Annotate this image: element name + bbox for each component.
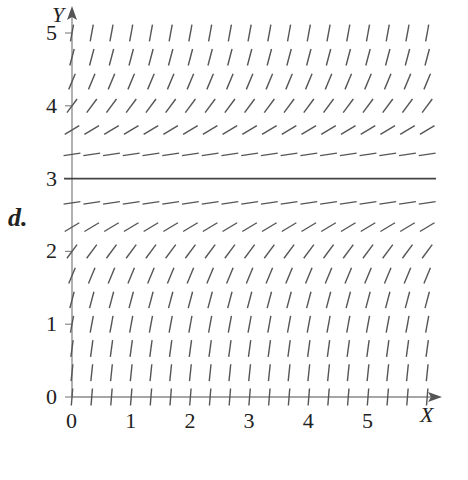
slope-segment bbox=[167, 268, 174, 284]
slope-segment bbox=[91, 364, 93, 381]
slope-segment bbox=[367, 364, 369, 381]
slope-segment bbox=[282, 223, 297, 232]
slope-segment bbox=[248, 340, 250, 357]
slope-segment bbox=[128, 74, 135, 90]
slope-segment bbox=[341, 223, 356, 232]
slope-segment bbox=[207, 268, 214, 284]
slope-segment bbox=[326, 49, 330, 65]
slope-segment bbox=[170, 340, 172, 357]
slope-segment bbox=[246, 74, 253, 90]
slope-segment bbox=[221, 202, 238, 205]
slope-segment bbox=[185, 99, 195, 113]
slope-segment bbox=[264, 245, 274, 259]
slope-segment bbox=[202, 202, 219, 205]
slope-segment bbox=[182, 153, 199, 156]
slope-segment bbox=[346, 292, 350, 308]
slope-segment bbox=[170, 389, 171, 406]
slope-segment bbox=[228, 49, 232, 65]
slope-segment bbox=[327, 340, 329, 357]
slope-segment bbox=[163, 126, 178, 135]
slope-segment bbox=[400, 126, 415, 135]
slope-segment bbox=[406, 25, 409, 42]
slope-segment bbox=[248, 25, 251, 42]
slope-segment bbox=[124, 126, 139, 135]
slope-segment bbox=[190, 364, 192, 381]
slope-segment bbox=[91, 340, 93, 357]
slope-segment bbox=[149, 25, 152, 42]
slope-segment bbox=[347, 25, 350, 42]
slope-segment bbox=[109, 49, 113, 65]
slope-segment bbox=[261, 153, 278, 156]
slope-segment bbox=[386, 49, 390, 65]
slope-segment bbox=[361, 223, 376, 232]
slope-segment bbox=[189, 25, 192, 42]
slope-segment bbox=[363, 245, 373, 259]
slope-segment bbox=[111, 389, 112, 406]
slope-segment bbox=[288, 340, 290, 357]
slope-segment bbox=[347, 340, 349, 357]
slope-segment bbox=[228, 292, 232, 308]
slope-segment bbox=[288, 316, 291, 333]
slope-segment bbox=[268, 25, 271, 42]
slope-segment bbox=[282, 126, 297, 135]
slope-segment bbox=[407, 389, 408, 406]
slope-segment bbox=[223, 126, 238, 135]
slope-segment bbox=[169, 25, 172, 42]
slope-segment bbox=[306, 74, 313, 90]
slope-segment bbox=[386, 25, 389, 42]
y-tick-label: 1 bbox=[46, 313, 57, 335]
slope-segment bbox=[379, 202, 396, 205]
slope-segment bbox=[302, 126, 317, 135]
slope-segment bbox=[340, 153, 357, 156]
slope-segment bbox=[300, 202, 317, 205]
slope-segment bbox=[419, 202, 436, 205]
y-tick-label: 4 bbox=[46, 95, 57, 117]
slope-segment bbox=[207, 74, 214, 90]
slope-segment bbox=[104, 126, 119, 135]
slope-segment bbox=[130, 25, 133, 42]
slope-segment bbox=[162, 153, 179, 156]
slope-segment bbox=[308, 364, 310, 381]
slope-segment bbox=[203, 126, 218, 135]
slope-segment bbox=[286, 74, 293, 90]
slope-segment bbox=[425, 49, 429, 65]
slope-segment bbox=[209, 364, 211, 381]
slope-segment bbox=[183, 126, 198, 135]
slope-segment bbox=[108, 74, 115, 90]
slope-segment bbox=[124, 223, 139, 232]
slope-segment bbox=[245, 245, 255, 259]
slope-segment bbox=[110, 340, 112, 357]
slope-segment bbox=[229, 364, 231, 381]
slope-segment bbox=[187, 74, 194, 90]
slope-segment bbox=[327, 25, 330, 42]
slope-segment bbox=[144, 223, 159, 232]
slope-segment bbox=[90, 292, 94, 308]
slope-segment bbox=[87, 245, 97, 259]
slope-segment bbox=[406, 340, 408, 357]
slope-segment bbox=[166, 245, 176, 259]
slope-segment bbox=[284, 99, 294, 113]
slope-segment bbox=[304, 99, 314, 113]
slope-segment bbox=[208, 49, 212, 65]
slope-segment bbox=[264, 99, 274, 113]
slope-segment bbox=[242, 126, 257, 135]
slope-segment bbox=[247, 292, 251, 308]
slope-segment bbox=[123, 153, 140, 156]
slope-segment bbox=[202, 153, 219, 156]
slope-segment bbox=[229, 340, 231, 357]
slope-segment bbox=[245, 99, 255, 113]
slope-segment bbox=[167, 74, 174, 90]
slope-segment bbox=[366, 292, 370, 308]
slope-segment bbox=[268, 340, 270, 357]
slope-segment bbox=[266, 268, 273, 284]
slope-segment bbox=[366, 49, 370, 65]
slope-segment bbox=[284, 245, 294, 259]
slope-segment bbox=[404, 74, 411, 90]
slope-segment bbox=[326, 292, 330, 308]
slope-segment bbox=[84, 223, 99, 232]
slope-segment bbox=[287, 292, 291, 308]
slope-segment bbox=[366, 25, 369, 42]
slope-segment bbox=[367, 389, 368, 406]
slope-segment bbox=[386, 292, 390, 308]
slope-segment bbox=[405, 292, 409, 308]
